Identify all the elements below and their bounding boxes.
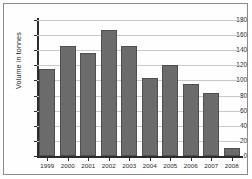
x-axis-tick-mark [232, 157, 233, 161]
chart-frame: Volume in tonnes 02040608010012014016018… [3, 3, 248, 175]
bar-chart: Volume in tonnes 02040608010012014016018… [4, 4, 247, 174]
x-axis-tick-mark [150, 157, 151, 161]
bar [224, 148, 240, 156]
x-axis-tick-mark [47, 157, 48, 161]
bar [60, 46, 76, 156]
x-axis-tick-mark [88, 157, 89, 161]
plot-area [37, 20, 242, 156]
x-axis-tick-mark [68, 157, 69, 161]
x-axis-tick-mark [170, 157, 171, 161]
bar [121, 46, 137, 156]
x-axis-tick-mark [129, 157, 130, 161]
bar [80, 53, 96, 156]
bar [142, 78, 158, 156]
bar [203, 93, 219, 156]
x-axis-tick-mark [191, 157, 192, 161]
x-axis-tick-label: 2008 [217, 163, 247, 169]
bar [101, 30, 117, 156]
bar [39, 69, 55, 156]
gridline [37, 20, 242, 21]
x-axis-tick-mark [211, 157, 212, 161]
y-axis-title: Volume in tonnes [14, 11, 23, 111]
bar [162, 65, 178, 156]
gridline [37, 35, 242, 36]
x-axis-tick-mark [109, 157, 110, 161]
bar [183, 84, 199, 156]
